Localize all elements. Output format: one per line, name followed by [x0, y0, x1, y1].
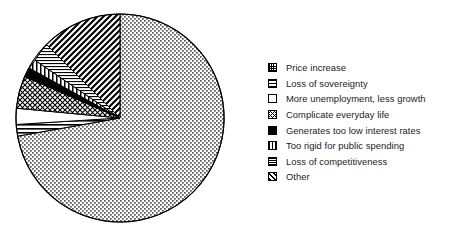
blank-swatch-icon: [268, 94, 277, 103]
pie-chart-figure: Price increase Loss of sovereignty More …: [0, 0, 462, 236]
legend-item-generates-too-low-interest-rates[interactable]: Generates too low interest rates: [268, 122, 458, 138]
legend-item-label: Too rigid for public spending: [286, 140, 404, 151]
horizontal-lines-fine-swatch-icon: [268, 157, 277, 166]
legend-item-price-increase[interactable]: Price increase: [268, 60, 458, 76]
diagonal-hatch-swatch-icon: [268, 172, 277, 181]
solid-black-swatch-icon: [268, 126, 277, 135]
dots-swatch-icon: [268, 63, 277, 72]
pie-graphic: [0, 0, 250, 236]
legend-item-label: Complicate everyday life: [286, 109, 389, 120]
legend-item-too-rigid-for-public-spending[interactable]: Too rigid for public spending: [268, 138, 458, 154]
crosshatch-swatch-icon: [268, 110, 277, 119]
legend-item-loss-of-competitiveness[interactable]: Loss of competitiveness: [268, 154, 458, 170]
legend-item-complicate-everyday-life[interactable]: Complicate everyday life: [268, 107, 458, 123]
legend-item-label: Loss of competitiveness: [286, 156, 387, 167]
legend-item-label: Price increase: [286, 62, 346, 73]
legend-item-label: More unemployment, less growth: [286, 93, 426, 104]
legend-item-more-unemployment[interactable]: More unemployment, less growth: [268, 91, 458, 107]
pie-slices: [16, 14, 224, 222]
legend-item-label: Generates too low interest rates: [286, 125, 420, 136]
legend-item-label: Loss of sovereignty: [286, 78, 368, 89]
pie-svg: [0, 0, 250, 236]
horizontal-stripes-swatch-icon: [268, 79, 277, 88]
vertical-lines-swatch-icon: [268, 141, 277, 150]
legend-item-label: Other: [286, 171, 310, 182]
chart-legend: Price increase Loss of sovereignty More …: [268, 60, 458, 192]
legend-item-loss-of-sovereignty[interactable]: Loss of sovereignty: [268, 76, 458, 92]
legend-item-other[interactable]: Other: [268, 169, 458, 185]
